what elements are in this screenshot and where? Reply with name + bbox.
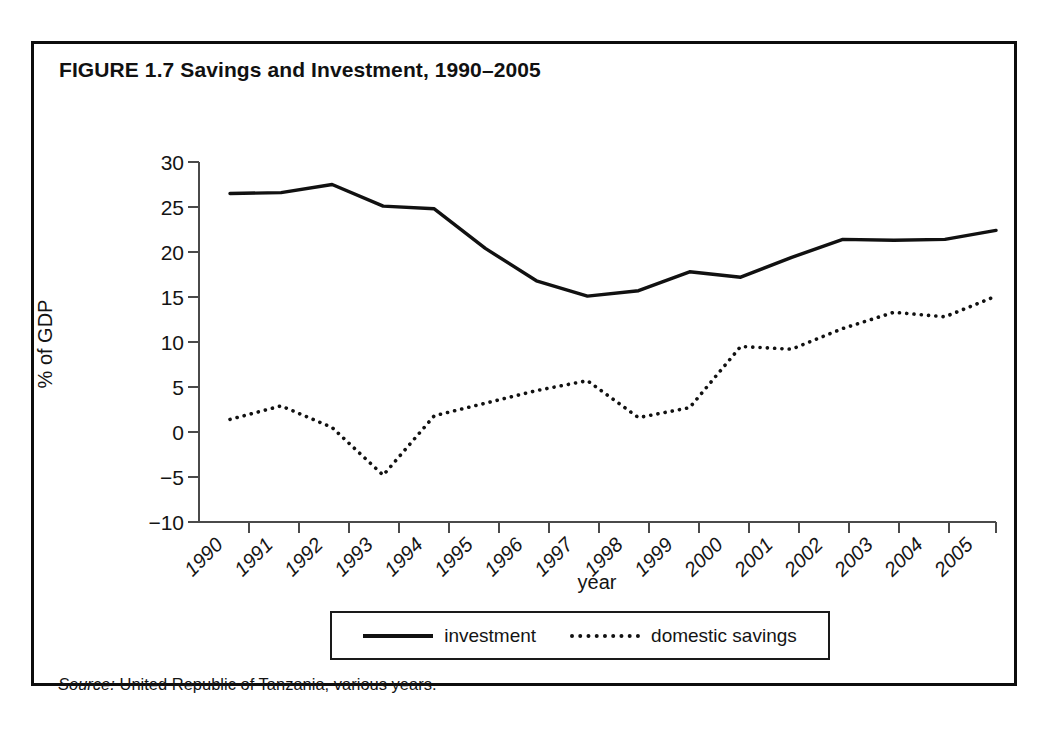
source-note: Source: United Republic of Tanzania, var… — [58, 675, 437, 694]
x-tick-marks — [249, 522, 996, 533]
x-tick-label: 1991 — [230, 533, 277, 580]
legend-label-domestic-savings: domestic savings — [651, 625, 797, 647]
legend-entry-investment: investment — [363, 625, 536, 647]
y-axis-label: % of GDP — [34, 300, 56, 389]
figure-frame: FIGURE 1.7 Savings and Investment, 1990–… — [31, 41, 1017, 686]
x-tick-label: 1997 — [530, 533, 578, 581]
y-tick-label: 15 — [161, 286, 184, 309]
y-tick-label: 30 — [161, 151, 184, 174]
x-tick-label: 1999 — [630, 533, 677, 580]
x-tick-label: 2001 — [729, 533, 777, 581]
x-tick-label: 1993 — [330, 533, 377, 580]
y-tick-labels: 30 25 20 15 10 5 0 −5 −10 — [148, 151, 184, 534]
x-tick-label: 1995 — [430, 533, 478, 581]
x-tick-label: 2000 — [679, 533, 727, 581]
line-chart-svg: % of GDP 30 25 20 15 10 5 0 −5 −10 — [34, 94, 1014, 594]
x-tick-label: 2002 — [779, 533, 827, 581]
y-tick-label: 25 — [161, 196, 184, 219]
y-tick-label: 5 — [172, 376, 184, 399]
x-tick-label: 1996 — [480, 533, 528, 581]
source-text: United Republic of Tanzania, various yea… — [115, 675, 437, 693]
y-tick-label: 0 — [172, 421, 184, 444]
x-tick-label: 1994 — [380, 533, 427, 580]
x-tick-label: 2005 — [929, 533, 977, 581]
x-tick-label: 1990 — [180, 533, 227, 580]
y-tick-label: −10 — [148, 511, 184, 534]
x-axis-label: year — [578, 571, 617, 593]
y-tick-label: 10 — [161, 331, 184, 354]
figure-title: FIGURE 1.7 Savings and Investment, 1990–… — [59, 58, 541, 82]
source-prefix: Source: — [58, 675, 115, 693]
y-tick-marks — [188, 162, 199, 522]
x-tick-label: 2003 — [829, 533, 877, 581]
series-line-domestic-savings — [230, 296, 996, 475]
chart-legend: investment domestic savings — [330, 611, 830, 660]
legend-entry-domestic-savings: domestic savings — [570, 625, 797, 647]
solid-line-icon — [363, 634, 433, 638]
legend-label-investment: investment — [444, 625, 536, 647]
chart-plot-area: % of GDP 30 25 20 15 10 5 0 −5 −10 — [34, 94, 1014, 594]
dotted-line-icon — [570, 634, 640, 638]
y-tick-label: −5 — [160, 466, 184, 489]
series-line-investment — [230, 185, 996, 297]
x-tick-label: 2004 — [879, 533, 927, 581]
y-tick-label: 20 — [161, 241, 184, 264]
x-tick-label: 1992 — [280, 533, 327, 580]
